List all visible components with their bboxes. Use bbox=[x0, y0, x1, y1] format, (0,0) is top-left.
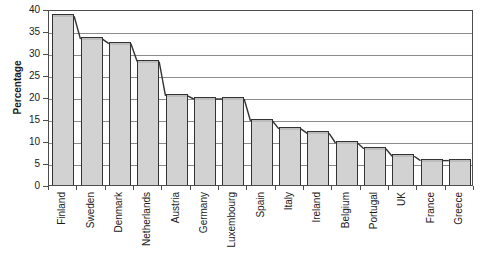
y-tick-label: 30 bbox=[8, 49, 40, 59]
x-axis-ticks bbox=[48, 186, 473, 191]
x-axis-label: Spain bbox=[254, 192, 268, 262]
x-tick-mark bbox=[331, 186, 332, 190]
x-axis-label-slot: Greece bbox=[452, 192, 482, 206]
bar-top-connectors bbox=[49, 11, 474, 187]
x-axis-label: Austria bbox=[169, 192, 183, 262]
bar-connector bbox=[358, 143, 364, 149]
x-axis-label: Luxembourg bbox=[225, 192, 239, 262]
x-tick-mark bbox=[416, 186, 417, 190]
x-tick-mark bbox=[360, 186, 361, 190]
x-axis-label: Ireland bbox=[310, 192, 324, 262]
bar-connector bbox=[386, 149, 392, 156]
bar-connector bbox=[159, 62, 165, 96]
bar-connector bbox=[74, 16, 80, 39]
y-tick-label: 35 bbox=[8, 27, 40, 37]
y-tick-label: 0 bbox=[8, 181, 40, 191]
x-tick-mark bbox=[48, 186, 49, 190]
x-axis-label: Netherlands bbox=[140, 192, 154, 262]
x-axis-label: Sweden bbox=[84, 192, 98, 262]
y-tick-label: 5 bbox=[8, 159, 40, 169]
x-axis-label: Portugal bbox=[367, 192, 381, 262]
y-tick-label: 40 bbox=[8, 5, 40, 15]
x-axis-label: Italy bbox=[282, 192, 296, 262]
x-axis-label: France bbox=[424, 192, 438, 262]
bar-connector bbox=[188, 96, 194, 99]
y-tick-label: 20 bbox=[8, 93, 40, 103]
bar-connector bbox=[273, 121, 279, 129]
x-axis-label: Greece bbox=[452, 192, 466, 262]
x-tick-mark bbox=[133, 186, 134, 190]
bar-connector bbox=[103, 39, 109, 43]
plot-area bbox=[48, 10, 473, 186]
bar-chart: Percentage 0510152025303540 FinlandSwede… bbox=[0, 0, 482, 263]
x-tick-mark bbox=[190, 186, 191, 190]
x-axis-label: Belgium bbox=[339, 192, 353, 262]
x-tick-mark bbox=[303, 186, 304, 190]
x-tick-mark bbox=[388, 186, 389, 190]
x-tick-mark bbox=[445, 186, 446, 190]
x-tick-mark bbox=[246, 186, 247, 190]
x-tick-mark bbox=[218, 186, 219, 190]
x-tick-mark bbox=[473, 186, 474, 190]
x-axis-labels: FinlandSwedenDenmarkNetherlandsAustriaGe… bbox=[48, 192, 473, 262]
x-tick-mark bbox=[76, 186, 77, 190]
y-tick-label: 10 bbox=[8, 137, 40, 147]
y-tick-label: 15 bbox=[8, 115, 40, 125]
y-tick-label: 25 bbox=[8, 71, 40, 81]
x-tick-mark bbox=[275, 186, 276, 190]
bar-connector bbox=[414, 156, 420, 160]
x-axis-label: Denmark bbox=[112, 192, 126, 262]
x-tick-mark bbox=[161, 186, 162, 190]
bar-connector bbox=[131, 44, 137, 62]
x-axis-label: UK bbox=[395, 192, 409, 262]
bar-connector bbox=[329, 133, 335, 143]
bar-connector bbox=[244, 99, 250, 121]
x-axis-label: Finland bbox=[55, 192, 69, 262]
bar-connector bbox=[301, 129, 307, 133]
x-axis-label: Germany bbox=[197, 192, 211, 262]
x-tick-mark bbox=[105, 186, 106, 190]
